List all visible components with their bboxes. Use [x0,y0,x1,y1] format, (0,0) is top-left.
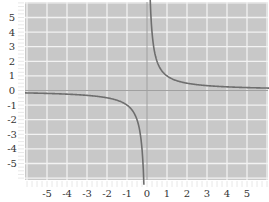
y-tick-label: 5 [9,12,15,23]
x-tick-label: 4 [224,188,230,199]
x-tick-label: -5 [42,188,52,199]
x-tick-label: -3 [82,188,92,199]
x-tick-label: 0 [144,188,150,199]
x-tick-label: 3 [204,188,210,199]
y-tick-label: 1 [9,70,15,81]
y-tick-label: -1 [7,100,17,111]
y-tick-label: 2 [9,56,15,67]
x-tick-labels: -5-4-3-2-1012345 [42,188,250,199]
y-tick-label: -5 [7,158,17,169]
y-tick-label: 3 [9,41,15,52]
y-tick-labels: 543210-1-2-3-4-5 [7,12,17,169]
x-tick-label: 5 [244,188,250,199]
y-tick-label: 4 [9,27,15,38]
x-tick-label: -1 [122,188,132,199]
x-tick-label: -2 [102,188,112,199]
x-tick-label: 1 [164,188,170,199]
y-tick-label: 0 [9,85,15,96]
x-tick-label: 2 [184,188,190,199]
y-tick-label: -4 [7,143,17,154]
x-tick-label: -4 [62,188,72,199]
y-tick-label: -2 [7,114,17,125]
hyperbola-chart: -5-4-3-2-1012345 543210-1-2-3-4-5 [0,0,269,202]
y-tick-label: -3 [7,129,17,140]
